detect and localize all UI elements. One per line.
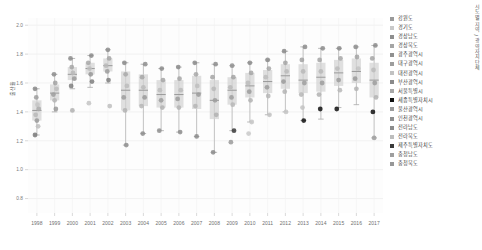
data-point	[142, 95, 147, 100]
legend-item[interactable]: 제주특별자치도	[390, 141, 470, 150]
data-point	[69, 83, 74, 88]
data-point	[71, 70, 76, 75]
legend-item[interactable]: 대전광역시	[390, 69, 470, 78]
data-point	[249, 120, 254, 125]
data-point	[318, 69, 323, 74]
x-axis-tick-label: 2004	[138, 220, 149, 226]
legend-item-label: 충청남도	[398, 152, 418, 157]
data-point	[194, 72, 199, 77]
data-point	[106, 78, 111, 83]
data-point	[249, 70, 254, 75]
data-point	[159, 98, 164, 103]
data-point	[371, 68, 376, 73]
y-axis-tick-label: 1.4	[16, 110, 23, 115]
legend-swatch-icon	[390, 162, 394, 166]
y-axis-tick-label: 2.0	[16, 23, 23, 28]
y-axis-tick-label: 0.8	[16, 196, 23, 201]
data-point	[372, 135, 377, 140]
data-point	[178, 88, 183, 93]
data-point	[33, 133, 38, 138]
data-point	[143, 62, 148, 67]
legend-swatch-icon	[390, 35, 394, 39]
legend-item[interactable]: 강원도	[390, 14, 470, 23]
legend-item[interactable]: 충청북도	[390, 160, 470, 169]
data-point	[160, 105, 165, 110]
y-axis-tick-label: 1.6	[16, 81, 23, 86]
data-point	[87, 66, 92, 71]
data-point	[228, 140, 233, 145]
data-point	[139, 104, 144, 109]
legend-item[interactable]: 울산광역시	[390, 105, 470, 114]
data-point	[72, 76, 77, 81]
legend-swatch-icon	[390, 53, 394, 57]
data-point	[337, 88, 342, 93]
data-point	[370, 109, 375, 114]
legend-item[interactable]: 경상북도	[390, 41, 470, 50]
data-point	[192, 60, 197, 65]
box-iqr	[174, 80, 183, 107]
legend-item[interactable]: 서울특별시	[390, 87, 470, 96]
data-point	[337, 46, 342, 51]
data-point	[90, 79, 95, 84]
legend-swatch-icon	[390, 17, 394, 21]
data-point	[248, 98, 253, 103]
data-point	[372, 81, 377, 86]
data-point	[211, 86, 216, 91]
data-point	[370, 56, 375, 61]
plot-background	[28, 18, 383, 213]
legend-item[interactable]: 부산광역시	[390, 78, 470, 87]
box-iqr	[192, 76, 201, 109]
data-point	[161, 78, 166, 83]
legend-item[interactable]: 경상남도	[390, 32, 470, 41]
data-point	[356, 66, 361, 71]
data-point	[122, 60, 127, 65]
data-point	[281, 79, 286, 84]
legend-item[interactable]: 인천광역시	[390, 114, 470, 123]
box-iqr	[157, 80, 166, 107]
legend-item-label: 인천광역시	[398, 116, 423, 121]
data-point	[196, 92, 201, 97]
data-point	[228, 85, 233, 90]
data-point	[195, 83, 200, 88]
legend-item-label: 세종특별자치시	[398, 98, 433, 103]
data-point	[354, 86, 359, 91]
data-point	[141, 85, 146, 90]
legend-swatch-icon	[390, 80, 394, 84]
legend-item[interactable]: 전라북도	[390, 132, 470, 141]
data-point	[33, 86, 38, 91]
legend-swatch-icon	[390, 71, 394, 75]
data-point	[123, 108, 128, 113]
legend-item[interactable]: 경기도	[390, 23, 470, 32]
legend-item[interactable]: 전라남도	[390, 123, 470, 132]
data-point	[320, 81, 325, 86]
data-point	[105, 47, 110, 52]
data-point	[52, 72, 57, 77]
box-iqr	[121, 71, 130, 110]
data-point	[124, 83, 129, 88]
data-point	[353, 44, 358, 49]
data-point	[336, 78, 341, 83]
data-point	[265, 85, 270, 90]
legend-item[interactable]: 충청남도	[390, 150, 470, 159]
data-point	[318, 107, 323, 112]
x-axis-tick-label: 2009	[227, 220, 238, 226]
data-point	[282, 89, 287, 94]
legend-item[interactable]: 대구광역시	[390, 59, 470, 68]
data-point	[246, 131, 251, 136]
x-axis-tick-label: 2016	[351, 220, 362, 226]
data-point	[69, 65, 74, 70]
data-point	[247, 60, 252, 65]
data-point	[299, 57, 304, 62]
x-axis-tick-label: 2005	[156, 220, 167, 226]
x-axis-tick-label: 2000	[67, 220, 78, 226]
x-axis-tick-label: 2002	[102, 220, 113, 226]
legend-item-label: 전라남도	[398, 125, 418, 130]
data-point	[68, 56, 73, 61]
data-point	[230, 102, 235, 107]
legend-item-label: 경기도	[398, 25, 413, 30]
legend-item[interactable]: 세종특별자치시	[390, 96, 470, 105]
data-point	[176, 65, 181, 70]
legend-item[interactable]: 광주광역시	[390, 50, 470, 59]
x-axis-tick-label: 2012	[280, 220, 291, 226]
data-point	[247, 89, 252, 94]
